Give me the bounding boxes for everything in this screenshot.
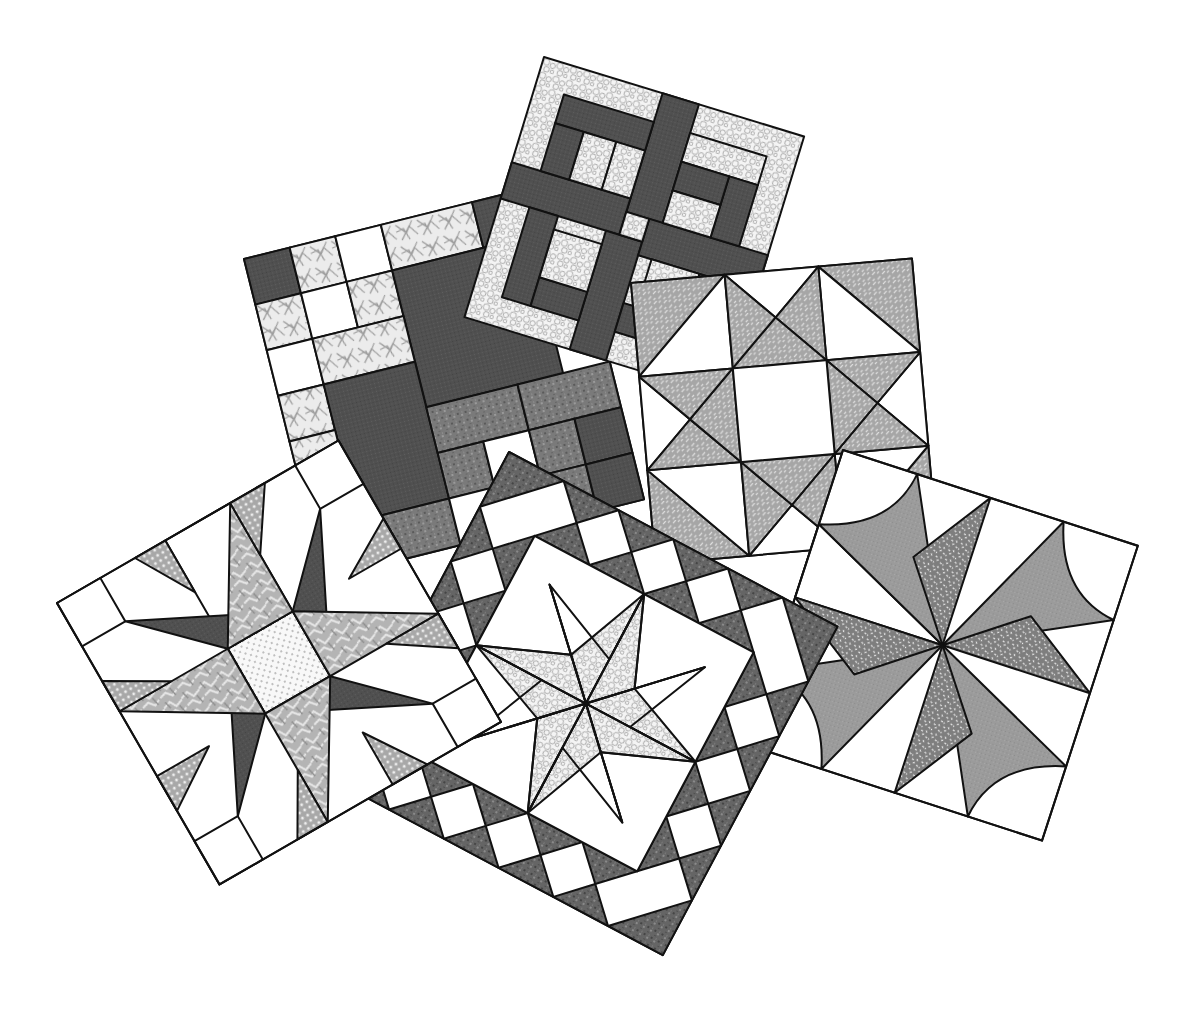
quilt-block-collage [0,0,1192,1022]
